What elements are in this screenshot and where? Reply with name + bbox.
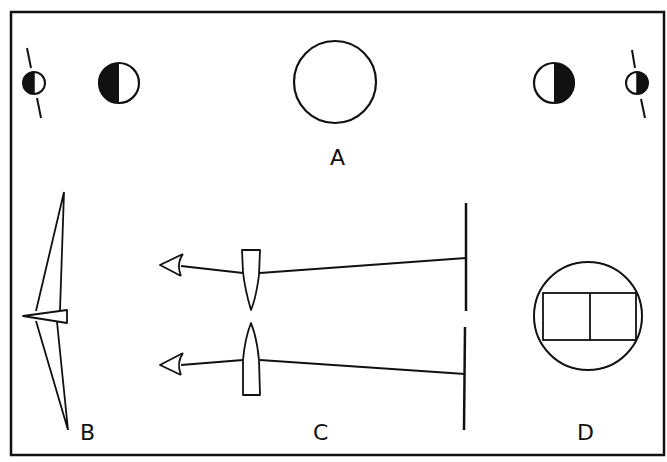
eye-icon <box>160 254 183 276</box>
diagram-canvas: A B C D <box>0 0 667 462</box>
panel-label-c: C <box>313 420 328 445</box>
large-half-moon-right-icon <box>534 63 574 103</box>
field-of-view-circle <box>534 262 642 370</box>
full-disc-icon <box>294 41 376 123</box>
eye-icon <box>160 353 183 375</box>
wedge-lens-lower <box>243 323 260 395</box>
panel-a: A <box>23 41 648 170</box>
wedge-lens-upper <box>242 250 260 310</box>
small-half-moon-left-icon <box>23 48 45 118</box>
panel-label-b: B <box>80 420 95 445</box>
panel-label-a: A <box>330 145 345 170</box>
panel-b: B <box>23 192 95 445</box>
lower-viewing-path <box>160 323 465 430</box>
panel-label-d: D <box>577 420 594 445</box>
small-half-moon-right-icon <box>626 50 648 118</box>
screen-lower <box>464 327 465 430</box>
panel-c: C <box>160 203 466 445</box>
bent-wedge-shape <box>23 192 68 430</box>
upper-viewing-path <box>160 203 466 311</box>
large-half-moon-left-icon <box>99 63 139 103</box>
panel-d: D <box>534 262 642 445</box>
